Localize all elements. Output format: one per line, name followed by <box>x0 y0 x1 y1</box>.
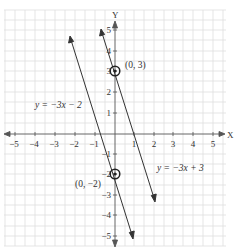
y-tick-label: −3 <box>101 190 111 200</box>
x-tick-label: 4 <box>191 139 196 149</box>
x-tick-label: 3 <box>171 139 176 149</box>
x-tick-label: −3 <box>49 139 59 149</box>
y-axis-label: Y <box>112 10 119 20</box>
y-tick-label: −5 <box>101 231 111 241</box>
point-label-0-neg2: (0, −2) <box>75 179 101 190</box>
equation-label-a: y = −3x − 2 <box>34 100 82 110</box>
coordinate-plane: X Y −5 −4 −3 −2 −1 1 2 3 4 5 5 4 3 2 1 −… <box>0 0 234 248</box>
y-tick-label: 1 <box>107 108 112 118</box>
line-a-top-arrow-icon <box>69 36 74 43</box>
y-tick-label: −4 <box>101 210 111 220</box>
point-label-0-3: (0, 3) <box>125 60 146 71</box>
x-tick-label: −5 <box>9 139 19 149</box>
x-axis-right-arrow-icon <box>219 132 225 137</box>
x-tick-label: 5 <box>211 139 216 149</box>
x-tick-label: 2 <box>152 139 157 149</box>
x-tick-label: −2 <box>69 139 79 149</box>
x-tick-label: −1 <box>89 139 99 149</box>
point-dot-icon <box>113 69 116 72</box>
line-a-bottom-arrow-icon <box>129 231 134 239</box>
y-axis-up-arrow-icon <box>113 21 118 28</box>
line-b-bottom-arrow-icon <box>151 194 156 202</box>
y-tick-label: 2 <box>107 87 112 97</box>
x-tick-label: −4 <box>29 139 39 149</box>
x-axis-label: X <box>227 130 234 140</box>
x-axis <box>4 132 225 137</box>
y-tick-label: 5 <box>107 25 112 35</box>
equation-label-b: y = −3x + 3 <box>156 163 204 173</box>
point-dot-icon <box>113 172 116 175</box>
